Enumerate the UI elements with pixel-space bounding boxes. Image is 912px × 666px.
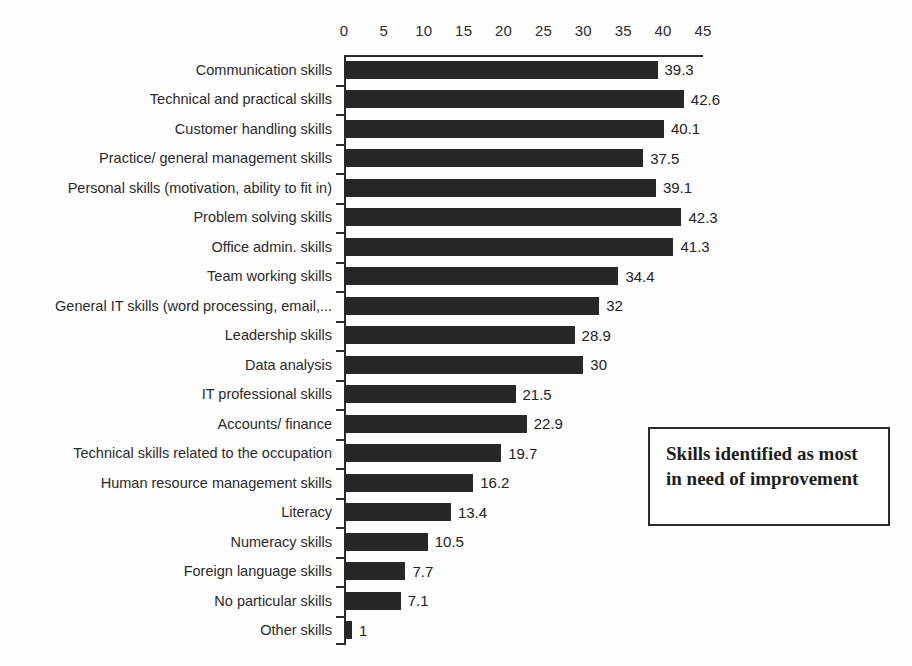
bar-value-label: 34.4 — [625, 269, 654, 284]
y-axis-line — [344, 55, 346, 645]
category-label: Human resource management skills — [101, 476, 332, 491]
x-tick-label: 25 — [535, 22, 552, 39]
y-axis-tick — [336, 291, 344, 293]
bar-row: 40.1 — [344, 120, 904, 138]
bar — [344, 621, 352, 639]
y-axis-tick — [336, 350, 344, 352]
bar-value-label: 21.5 — [523, 387, 552, 402]
y-axis-tick — [336, 498, 344, 500]
category-label: Office admin. skills — [211, 240, 332, 255]
y-axis-tick — [336, 527, 344, 529]
category-label: Accounts/ finance — [218, 417, 332, 432]
bar-value-label: 1 — [359, 623, 367, 638]
bar-value-label: 30 — [590, 357, 607, 372]
bar-row: 42.3 — [344, 208, 904, 226]
category-label: Leadership skills — [225, 328, 332, 343]
y-axis-tick — [336, 262, 344, 264]
category-label: No particular skills — [214, 594, 332, 609]
bar-value-label: 42.6 — [691, 92, 720, 107]
bar — [344, 415, 527, 433]
plot-area: 39.342.640.137.539.142.341.334.43228.930… — [344, 55, 703, 645]
category-label: Practice/ general management skills — [99, 151, 332, 166]
bar-value-label: 41.3 — [680, 239, 709, 254]
bar-row: 28.9 — [344, 326, 904, 344]
bar-value-label: 28.9 — [582, 328, 611, 343]
legend-text: Skills identified as most in need of imp… — [666, 441, 866, 492]
bar — [344, 208, 681, 226]
bar — [344, 297, 599, 315]
category-label: Team working skills — [207, 269, 332, 284]
bar-row: 7.7 — [344, 562, 904, 580]
bar-value-label: 10.5 — [435, 534, 464, 549]
y-axis-tick — [336, 557, 344, 559]
bar-row: 21.5 — [344, 385, 904, 403]
y-axis-tick — [336, 380, 344, 382]
bar-value-label: 42.3 — [688, 210, 717, 225]
bar-row: 30 — [344, 356, 904, 374]
x-tick-label: 15 — [455, 22, 472, 39]
bar — [344, 120, 664, 138]
category-label: Data analysis — [245, 358, 332, 373]
bar — [344, 503, 451, 521]
x-tick-label: 0 — [340, 22, 349, 39]
bar — [344, 533, 428, 551]
y-axis-tick — [336, 616, 344, 618]
y-axis-tick — [336, 85, 344, 87]
bar-row: 1 — [344, 621, 904, 639]
y-axis-tick — [336, 203, 344, 205]
bar-value-label: 7.7 — [412, 564, 433, 579]
y-axis-tick — [336, 643, 344, 645]
category-label: Technical skills related to the occupati… — [73, 446, 332, 461]
bar-row: 7.1 — [344, 592, 904, 610]
category-label: General IT skills (word processing, emai… — [55, 299, 332, 314]
bar — [344, 385, 516, 403]
legend-box: Skills identified as most in need of imp… — [648, 427, 890, 526]
category-label: Foreign language skills — [184, 564, 332, 579]
chart-canvas: 051015202530354045 Communication skillsT… — [0, 0, 912, 666]
category-label: Technical and practical skills — [150, 92, 332, 107]
bar — [344, 592, 401, 610]
category-label: Communication skills — [196, 63, 332, 78]
category-label: Other skills — [260, 623, 332, 638]
category-label: Customer handling skills — [175, 122, 332, 137]
y-axis-tick — [336, 439, 344, 441]
bar — [344, 238, 673, 256]
x-tick-label: 5 — [380, 22, 389, 39]
bar — [344, 474, 473, 492]
bar-row: 32 — [344, 297, 904, 315]
x-tick-label: 35 — [615, 22, 632, 39]
y-axis-tick — [336, 468, 344, 470]
y-axis-tick — [336, 173, 344, 175]
bar-row: 10.5 — [344, 533, 904, 551]
y-axis-tick — [336, 321, 344, 323]
bar-row: 39.1 — [344, 179, 904, 197]
category-label: Problem solving skills — [193, 210, 332, 225]
bar-value-label: 40.1 — [671, 121, 700, 136]
x-tick-label: 30 — [575, 22, 592, 39]
x-tick-label: 20 — [495, 22, 512, 39]
bar-value-label: 37.5 — [650, 151, 679, 166]
bar-row: 42.6 — [344, 90, 904, 108]
bar — [344, 562, 405, 580]
bar-row: 39.3 — [344, 61, 904, 79]
bar — [344, 61, 658, 79]
bar-value-label: 32 — [606, 298, 623, 313]
y-axis-tick — [336, 586, 344, 588]
bar — [344, 326, 575, 344]
bar-value-label: 39.1 — [663, 180, 692, 195]
bar-value-label: 22.9 — [534, 416, 563, 431]
x-tick-label: 45 — [694, 22, 711, 39]
bar-value-label: 19.7 — [508, 446, 537, 461]
axis-top-line — [344, 55, 703, 57]
bar-value-label: 16.2 — [480, 475, 509, 490]
y-axis-category-labels: Communication skillsTechnical and practi… — [0, 55, 338, 645]
y-axis-tick — [336, 409, 344, 411]
bar — [344, 444, 501, 462]
x-tick-label: 40 — [655, 22, 672, 39]
x-axis-tick-labels: 051015202530354045 — [344, 22, 704, 42]
bar-value-label: 13.4 — [458, 505, 487, 520]
bar-value-label: 39.3 — [665, 62, 694, 77]
bar — [344, 267, 618, 285]
category-label: Literacy — [281, 505, 332, 520]
y-axis-tick — [336, 114, 344, 116]
